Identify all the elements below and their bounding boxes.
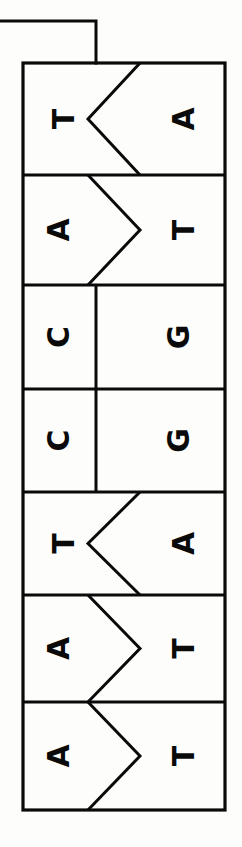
base-letter-left-row-6: A bbox=[41, 744, 76, 768]
figure-background bbox=[0, 0, 242, 847]
base-letter-right-row-3: G bbox=[161, 428, 196, 453]
base-letter-right-row-4: A bbox=[166, 531, 201, 555]
base-letter-left-row-2: C bbox=[41, 326, 76, 348]
base-letter-left-row-1: A bbox=[41, 218, 76, 242]
base-letter-left-row-3: C bbox=[41, 429, 76, 451]
base-letter-right-row-2: G bbox=[161, 325, 196, 350]
diagram-canvas: TAATCGCGTAATAT bbox=[0, 0, 242, 847]
base-letter-right-row-1: T bbox=[166, 219, 201, 240]
base-letter-left-row-0: T bbox=[46, 108, 81, 129]
dna-ladder-figure: TAATCGCGTAATAT bbox=[0, 0, 242, 847]
base-letter-right-row-5: T bbox=[166, 638, 201, 659]
base-letter-right-row-0: A bbox=[166, 107, 201, 131]
base-letter-left-row-5: A bbox=[41, 636, 76, 660]
base-letter-right-row-6: T bbox=[166, 745, 201, 766]
base-letter-left-row-4: T bbox=[46, 533, 81, 554]
